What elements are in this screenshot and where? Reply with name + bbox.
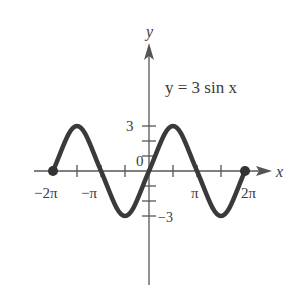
tick-label-neg3: −3 [158, 210, 173, 225]
tick-label-negpi: −π [81, 185, 97, 201]
tick-label-0: 0 [136, 153, 144, 169]
tick-label-2pi: 2π [241, 185, 257, 201]
y-axis-label: y [144, 23, 154, 41]
sine-graph: y x y = 3 sin x −2π −π π 2π 3 0 −3 [0, 0, 295, 289]
tick-label-3: 3 [126, 118, 134, 134]
tick-label-neg2pi: −2π [34, 185, 58, 201]
right-endpoint-dot [240, 166, 250, 176]
x-axis-label: x [275, 163, 283, 180]
tick-label-pi: π [191, 185, 199, 201]
left-endpoint-dot [48, 166, 58, 176]
equation-label: y = 3 sin x [165, 78, 237, 97]
